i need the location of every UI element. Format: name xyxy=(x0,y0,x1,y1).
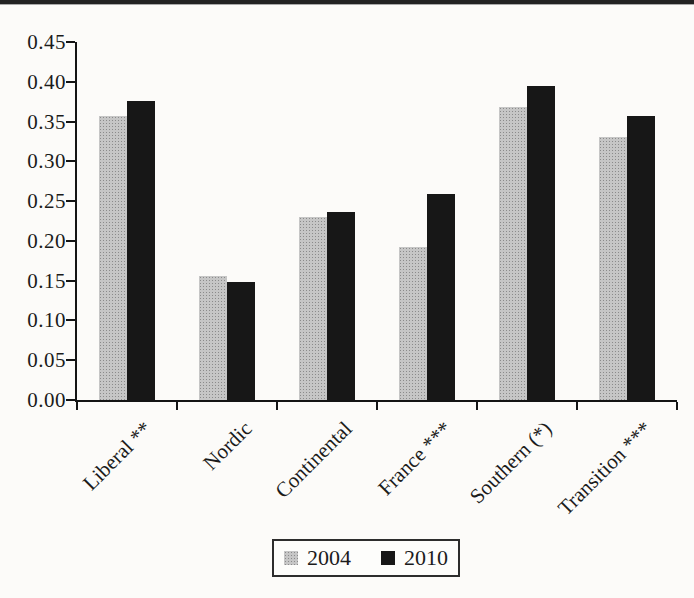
y-axis-tick-label: 0.05 xyxy=(0,350,66,371)
legend-item-2004: 2004 xyxy=(284,545,351,571)
legend-label-2010: 2010 xyxy=(404,545,448,571)
bar-2010-Liberal ** xyxy=(127,101,155,400)
legend-swatch-2010 xyxy=(381,551,395,565)
plot-area xyxy=(75,42,677,402)
bar-2010-Continental xyxy=(327,212,355,400)
x-axis-category-labels: Liberal **NordicContinentalFrance ***Sou… xyxy=(75,404,675,554)
y-axis-tick xyxy=(66,81,75,83)
x-axis-tick xyxy=(676,402,678,410)
y-axis-tick xyxy=(66,240,75,242)
bar-2004-Nordic xyxy=(199,276,227,400)
bar-2004-Transition *** xyxy=(599,137,627,400)
y-axis-tick-label: 0.45 xyxy=(0,32,66,53)
bar-2010-Southern (*) xyxy=(527,86,555,400)
y-axis-tick-label: 0.00 xyxy=(0,390,66,411)
legend: 2004 2010 xyxy=(272,539,460,577)
top-rule xyxy=(0,0,694,5)
chart-figure: 0.450.400.350.300.250.200.150.100.050.00… xyxy=(0,0,694,598)
bar-2004-France *** xyxy=(399,247,427,400)
y-axis-tick-label: 0.15 xyxy=(0,270,66,291)
bar-2004-Southern (*) xyxy=(499,107,527,400)
y-axis-tick-label: 0.30 xyxy=(0,151,66,172)
y-axis-tick xyxy=(66,359,75,361)
bar-2004-Continental xyxy=(299,217,327,400)
bar-2004-Liberal ** xyxy=(99,116,127,400)
y-axis-tick-label: 0.10 xyxy=(0,310,66,331)
y-axis-tick xyxy=(66,280,75,282)
legend-label-2004: 2004 xyxy=(307,545,351,571)
y-axis-tick xyxy=(66,41,75,43)
y-axis-tick-labels: 0.450.400.350.300.250.200.150.100.050.00 xyxy=(0,42,66,400)
y-axis-tick-label: 0.35 xyxy=(0,111,66,132)
y-axis-tick xyxy=(66,399,75,401)
bar-2010-Nordic xyxy=(227,282,255,400)
y-axis-tick xyxy=(66,121,75,123)
bar-2010-Transition *** xyxy=(627,116,655,400)
legend-item-2010: 2010 xyxy=(381,545,448,571)
bar-2010-France *** xyxy=(427,194,455,400)
y-axis-tick xyxy=(66,200,75,202)
legend-swatch-2004 xyxy=(284,551,298,565)
y-axis-tick-label: 0.40 xyxy=(0,71,66,92)
y-axis-tick-label: 0.25 xyxy=(0,191,66,212)
y-axis-tick xyxy=(66,319,75,321)
y-axis-tick-label: 0.20 xyxy=(0,230,66,251)
y-axis-tick xyxy=(66,160,75,162)
